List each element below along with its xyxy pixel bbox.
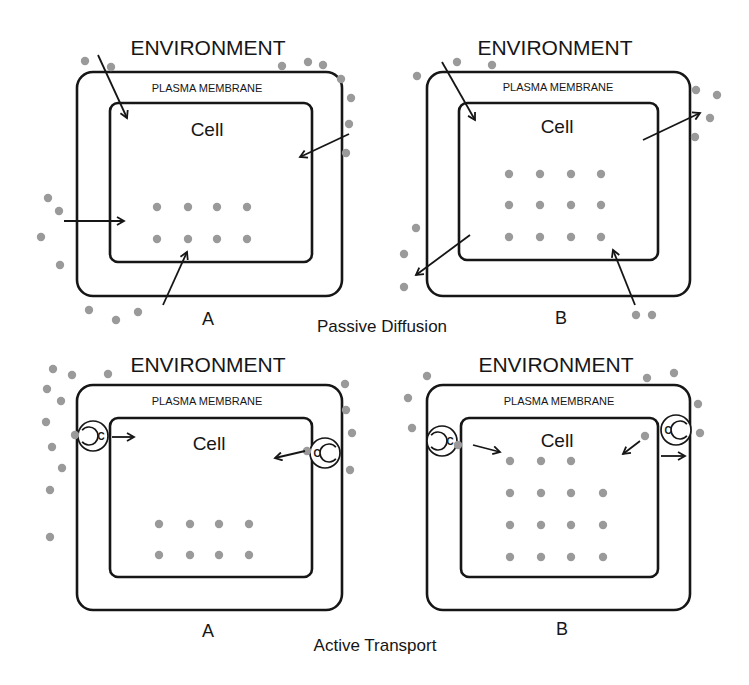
- panel-passive-b: ENVIRONMENTPLASMA MEMBRANECellB: [400, 36, 721, 328]
- molecule-outside-icon: [56, 261, 64, 269]
- molecule-outside-icon: [404, 394, 412, 402]
- molecule-inside-icon: [537, 553, 545, 561]
- molecule-outside-icon: [57, 397, 65, 405]
- molecule-inside-icon: [215, 520, 223, 528]
- molecule-outside-icon: [37, 233, 45, 241]
- molecule-outside-icon: [342, 149, 350, 157]
- molecule-outside-icon: [104, 370, 112, 378]
- molecule-outside-icon: [319, 61, 327, 69]
- molecule-outside-icon: [400, 283, 408, 291]
- molecule-inside-icon: [506, 521, 514, 529]
- molecule-outside-icon: [413, 72, 421, 80]
- molecule-inside-icon: [184, 235, 192, 243]
- molecule-bound-icon: [641, 432, 649, 440]
- molecule-outside-icon: [632, 311, 640, 319]
- molecule-outside-icon: [107, 63, 115, 71]
- molecule-inside-icon: [567, 201, 575, 209]
- molecule-inside-icon: [599, 553, 607, 561]
- carrier-protein-icon: C: [427, 426, 462, 456]
- molecule-outside-icon: [43, 385, 51, 393]
- molecule-inside-icon: [155, 520, 163, 528]
- carrier-protein-icon: C: [641, 415, 691, 445]
- molecule-inside-icon: [536, 233, 544, 241]
- molecule-inside-icon: [506, 489, 514, 497]
- molecule-outside-icon: [345, 120, 353, 128]
- plasma-membrane-label: PLASMA MEMBRANE: [152, 395, 263, 407]
- molecule-inside-icon: [186, 520, 194, 528]
- molecule-outside-icon: [58, 464, 66, 472]
- molecule-outside-icon: [643, 374, 651, 382]
- molecule-inside-icon: [153, 203, 161, 211]
- molecule-inside-icon: [215, 551, 223, 559]
- panel-letter-label: B: [555, 308, 567, 328]
- molecule-inside-icon: [599, 521, 607, 529]
- molecule-outside-icon: [692, 86, 700, 94]
- panels-group: ENVIRONMENTPLASMA MEMBRANECellAENVIRONME…: [37, 36, 721, 641]
- molecule-outside-icon: [648, 311, 656, 319]
- molecule-inside-icon: [245, 551, 253, 559]
- carrier-protein-icon: C: [303, 438, 340, 468]
- molecule-inside-icon: [505, 201, 513, 209]
- molecule-bound-icon: [71, 431, 79, 439]
- molecule-inside-icon: [567, 521, 575, 529]
- molecule-outside-icon: [304, 58, 312, 66]
- cell-label: Cell: [193, 433, 226, 454]
- panel-letter-label: B: [556, 619, 568, 639]
- svg-text:C: C: [313, 448, 320, 459]
- cell-label: Cell: [541, 430, 574, 451]
- molecule-outside-icon: [134, 308, 142, 316]
- diffusion-arrow-icon: [623, 441, 640, 454]
- molecule-outside-icon: [691, 133, 699, 141]
- molecule-outside-icon: [49, 365, 57, 373]
- molecule-outside-icon: [694, 400, 702, 408]
- diffusion-arrow-icon: [275, 451, 305, 458]
- panel-letter-label: A: [202, 621, 214, 641]
- molecule-outside-icon: [412, 224, 420, 232]
- panel-letter-label: A: [202, 309, 214, 329]
- molecule-inside-icon: [537, 521, 545, 529]
- molecule-outside-icon: [348, 429, 356, 437]
- panel-active-b: ENVIRONMENTPLASMA MEMBRANECellBCC: [404, 353, 704, 639]
- molecule-inside-icon: [537, 457, 545, 465]
- molecule-outside-icon: [341, 380, 349, 388]
- molecule-inside-icon: [506, 553, 514, 561]
- molecule-outside-icon: [400, 250, 408, 258]
- caption-active-transport: Active Transport: [314, 636, 437, 655]
- molecule-inside-icon: [597, 233, 605, 241]
- molecule-bound-icon: [454, 441, 462, 449]
- molecule-outside-icon: [44, 194, 52, 202]
- molecule-inside-icon: [506, 457, 514, 465]
- molecule-inside-icon: [537, 489, 545, 497]
- molecule-inside-icon: [536, 201, 544, 209]
- molecule-outside-icon: [55, 207, 63, 215]
- molecule-outside-icon: [453, 58, 461, 66]
- molecule-outside-icon: [46, 486, 54, 494]
- cell-label: Cell: [191, 119, 224, 140]
- molecule-inside-icon: [213, 203, 221, 211]
- caption-passive-diffusion: Passive Diffusion: [317, 317, 447, 336]
- panel-passive-a: ENVIRONMENTPLASMA MEMBRANECellA: [37, 36, 355, 329]
- molecule-inside-icon: [213, 235, 221, 243]
- molecule-outside-icon: [696, 429, 704, 437]
- molecule-inside-icon: [505, 170, 513, 178]
- molecule-inside-icon: [567, 553, 575, 561]
- molecule-inside-icon: [567, 170, 575, 178]
- molecule-inside-icon: [505, 233, 513, 241]
- molecule-inside-icon: [536, 170, 544, 178]
- molecule-outside-icon: [85, 306, 93, 314]
- diffusion-arrow-icon: [416, 235, 470, 275]
- molecule-inside-icon: [567, 233, 575, 241]
- environment-label: ENVIRONMENT: [478, 353, 633, 376]
- molecule-inside-icon: [186, 551, 194, 559]
- molecule-outside-icon: [408, 424, 416, 432]
- molecule-outside-icon: [346, 466, 354, 474]
- molecule-inside-icon: [153, 235, 161, 243]
- molecule-outside-icon: [46, 533, 54, 541]
- molecule-outside-icon: [81, 57, 89, 65]
- molecule-inside-icon: [599, 489, 607, 497]
- molecule-outside-icon: [706, 114, 714, 122]
- molecule-outside-icon: [670, 369, 678, 377]
- molecule-outside-icon: [337, 75, 345, 83]
- diffusion-arrow-icon: [473, 445, 500, 452]
- plasma-membrane-label: PLASMA MEMBRANE: [503, 81, 614, 93]
